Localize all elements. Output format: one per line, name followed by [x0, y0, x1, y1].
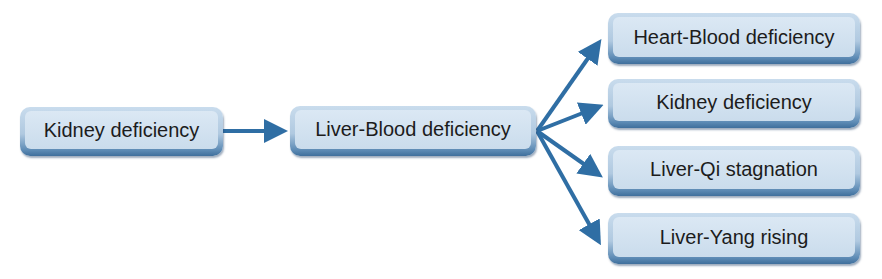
node-label: Heart-Blood deficiency [613, 17, 855, 57]
node-label: Kidney deficiency [25, 111, 218, 149]
node-label: Liver-Blood deficiency [295, 110, 531, 149]
node-heart-blood-deficiency: Heart-Blood deficiency [608, 13, 860, 64]
node-label: Liver-Qi stagnation [613, 150, 855, 189]
node-liver-blood-deficiency: Liver-Blood deficiency [290, 106, 536, 156]
node-kidney-deficiency-root: Kidney deficiency [20, 107, 223, 156]
node-kidney-deficiency-outcome: Kidney deficiency [608, 79, 860, 128]
arrow-middle-to-liver-qi [537, 131, 598, 174]
arrow-middle-to-liver-yang [537, 131, 598, 240]
node-label: Kidney deficiency [613, 83, 855, 121]
node-liver-yang-rising: Liver-Yang rising [608, 213, 860, 264]
node-liver-qi-stagnation: Liver-Qi stagnation [608, 146, 860, 196]
node-label: Liver-Yang rising [613, 217, 855, 257]
